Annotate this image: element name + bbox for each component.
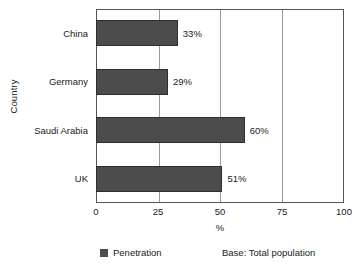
category-label-uk: UK <box>0 155 92 204</box>
base-note: Base: Total population <box>222 247 315 258</box>
category-label-china: China <box>0 9 92 58</box>
bar-uk[interactable] <box>96 166 222 192</box>
category-label-saudi-arabia: Saudi Arabia <box>0 106 92 155</box>
category-axis-labels: China Germany Saudi Arabia UK <box>0 9 92 203</box>
bar-germany[interactable] <box>96 69 168 95</box>
bar-china[interactable] <box>96 20 178 46</box>
x-tick-75: 75 <box>277 206 288 217</box>
x-tick-0: 0 <box>93 206 98 217</box>
x-tick-25: 25 <box>153 206 164 217</box>
x-tick-100: 100 <box>336 206 352 217</box>
bar-value-uk: 51% <box>227 173 246 184</box>
x-tick-50: 50 <box>215 206 226 217</box>
chart-legend: Penetration <box>100 247 162 258</box>
bar-chart: Country China Germany Saudi Arabia UK 33… <box>0 0 362 274</box>
bar-saudi-arabia[interactable] <box>96 117 245 143</box>
bar-value-china: 33% <box>183 28 202 39</box>
bar-value-saudi-arabia: 60% <box>250 125 269 136</box>
legend-swatch-penetration <box>100 249 108 257</box>
x-axis-ticks: 0 25 50 75 100 <box>96 206 344 220</box>
category-label-germany: Germany <box>0 58 92 107</box>
bar-row: 29% <box>96 58 344 107</box>
bar-row: 33% <box>96 9 344 58</box>
bar-row: 60% <box>96 106 344 155</box>
legend-label-penetration: Penetration <box>113 247 162 258</box>
bar-value-germany: 29% <box>173 76 192 87</box>
x-axis-title: % <box>96 222 344 233</box>
bars-layer: 33% 29% 60% 51% <box>96 9 344 203</box>
bar-row: 51% <box>96 155 344 204</box>
